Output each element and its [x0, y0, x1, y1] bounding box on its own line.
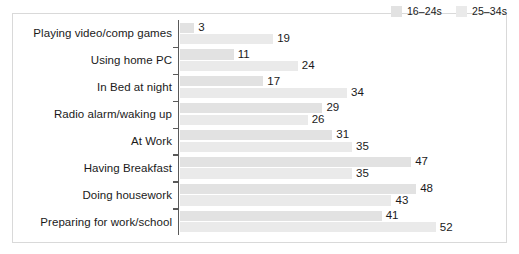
bar-item: 26: [180, 115, 500, 125]
bar[interactable]: [180, 142, 353, 152]
bar[interactable]: [180, 211, 382, 221]
bar[interactable]: [180, 222, 436, 232]
chart-category-row: In Bed at night1734: [13, 74, 508, 101]
chart-category-row: Radio alarm/waking up2926: [13, 101, 508, 128]
axis-tick: [173, 128, 179, 129]
bar[interactable]: [180, 34, 274, 44]
bar-group: 4152: [180, 209, 500, 234]
bar-item: 11: [180, 49, 500, 59]
legend-item[interactable]: 16–24s: [391, 5, 442, 17]
bar[interactable]: [180, 168, 353, 178]
bar[interactable]: [180, 115, 308, 125]
chart-category-row: Preparing for work/school4152: [13, 208, 508, 235]
category-label: Preparing for work/school: [40, 216, 172, 228]
bar-value-label: 24: [302, 60, 315, 72]
category-label: Radio alarm/waking up: [54, 108, 172, 120]
axis-tick: [173, 154, 179, 155]
axis-tick: [173, 47, 179, 48]
bar[interactable]: [180, 195, 392, 205]
bar-value-label: 48: [420, 183, 433, 195]
bar[interactable]: [180, 49, 234, 59]
bar-value-label: 47: [415, 156, 428, 168]
chart-category-row: Using home PC1124: [13, 47, 508, 74]
bar-group: 1734: [180, 75, 500, 100]
bar[interactable]: [180, 157, 412, 167]
legend-swatch-icon: [456, 6, 467, 17]
bar-value-label: 11: [238, 49, 250, 61]
bar[interactable]: [180, 23, 195, 33]
bar-item: 24: [180, 61, 500, 71]
bar-value-label: 29: [326, 102, 339, 114]
bar-group: 1124: [180, 48, 500, 73]
bar[interactable]: [180, 130, 333, 140]
bar[interactable]: [180, 103, 323, 113]
bar-item: 35: [180, 168, 500, 178]
bar-item: 52: [180, 222, 500, 232]
legend-swatch-icon: [391, 6, 402, 17]
legend-label: 16–24s: [407, 5, 442, 17]
bar-group: 2926: [180, 102, 500, 127]
chart-category-row: Having Breakfast4735: [13, 154, 508, 181]
axis-tick: [173, 181, 179, 182]
category-label: Using home PC: [91, 54, 172, 66]
bar[interactable]: [180, 76, 264, 86]
bar-item: 34: [180, 88, 500, 98]
legend-item[interactable]: 25–34s: [456, 5, 507, 17]
bar-value-label: 31: [336, 129, 349, 141]
category-label: Playing video/comp games: [33, 27, 172, 39]
bar[interactable]: [180, 61, 298, 71]
bar-item: 3: [180, 23, 500, 33]
axis-tick: [173, 101, 179, 102]
bar-item: 41: [180, 211, 500, 221]
bar-group: 4735: [180, 155, 500, 180]
chart-frame: Playing video/comp games319Using home PC…: [12, 13, 507, 243]
bar-value-label: 43: [395, 195, 408, 207]
bar-value-label: 35: [356, 141, 369, 153]
bar-group: 319: [180, 21, 500, 46]
category-label: Doing housework: [82, 189, 172, 201]
bar-item: 35: [180, 142, 500, 152]
axis-tick: [173, 208, 179, 209]
bar-group: 4843: [180, 182, 500, 207]
bar-rows: Playing video/comp games319Using home PC…: [13, 20, 508, 235]
category-label: In Bed at night: [97, 81, 172, 93]
category-label: Having Breakfast: [84, 162, 172, 174]
chart-legend: 16–24s25–34s: [391, 5, 507, 17]
legend-label: 25–34s: [472, 5, 507, 17]
bar-item: 31: [180, 130, 500, 140]
bar-value-label: 19: [277, 33, 290, 45]
bar-group: 3135: [180, 129, 500, 154]
bar-item: 47: [180, 157, 500, 167]
bar-value-label: 26: [312, 114, 325, 126]
bar-item: 19: [180, 34, 500, 44]
plot-area: Playing video/comp games319Using home PC…: [13, 14, 508, 242]
chart-category-row: At Work3135: [13, 128, 508, 155]
bar-value-label: 41: [386, 210, 399, 222]
bar-item: 29: [180, 103, 500, 113]
chart-category-row: Doing housework4843: [13, 181, 508, 208]
bar-value-label: 3: [198, 22, 204, 34]
bar-item: 17: [180, 76, 500, 86]
bar-item: 43: [180, 195, 500, 205]
bar-value-label: 34: [351, 87, 364, 99]
category-label: At Work: [131, 135, 172, 147]
bar-item: 48: [180, 184, 500, 194]
bar-value-label: 17: [267, 76, 280, 88]
bar[interactable]: [180, 184, 417, 194]
axis-tick: [173, 74, 179, 75]
bar-value-label: 52: [440, 222, 453, 234]
bar[interactable]: [180, 88, 348, 98]
chart-category-row: Playing video/comp games319: [13, 20, 508, 47]
bar-value-label: 35: [356, 168, 369, 180]
